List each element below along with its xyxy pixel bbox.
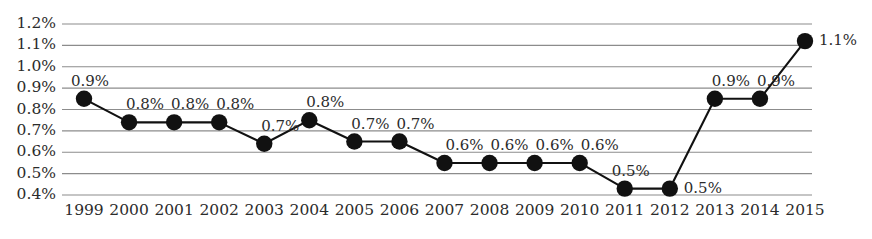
- data-point-marker: [166, 114, 182, 130]
- x-axis-tick-label: 2000: [109, 203, 148, 219]
- data-point-label: 1.1%: [819, 33, 857, 48]
- data-point-label: 0.6%: [445, 138, 483, 153]
- x-axis: 1999200020012002200320042005200620072008…: [62, 203, 812, 233]
- data-point-label: 0.7%: [396, 117, 434, 132]
- data-point-label: 0.7%: [351, 117, 389, 132]
- x-axis-tick-label: 2015: [785, 203, 824, 219]
- data-point-label: 0.8%: [126, 97, 164, 112]
- data-point-label: 0.7%: [261, 119, 299, 134]
- x-axis-tick-label: 2008: [470, 203, 509, 219]
- data-point-label: 0.9%: [71, 74, 109, 89]
- x-axis-tick-label: 2014: [740, 203, 779, 219]
- data-point-label: 0.8%: [306, 95, 344, 110]
- data-point-label: 0.5%: [612, 164, 650, 179]
- data-point-markers: [76, 33, 813, 197]
- x-axis-tick-label: 2001: [154, 203, 193, 219]
- data-point-marker: [301, 112, 317, 128]
- data-point-label: 0.9%: [712, 74, 750, 89]
- x-axis-tick-label: 2002: [199, 203, 238, 219]
- x-axis-tick-label: 2004: [290, 203, 329, 219]
- data-point-label: 0.5%: [684, 181, 722, 196]
- y-axis-tick-label: 0.5%: [17, 166, 56, 182]
- x-axis-tick-label: 2009: [515, 203, 554, 219]
- data-point-marker: [211, 114, 227, 130]
- x-axis-tick-label: 2003: [245, 203, 284, 219]
- data-point-marker: [797, 33, 813, 49]
- x-axis-tick-label: 2006: [380, 203, 419, 219]
- y-axis-tick-label: 0.8%: [17, 102, 56, 118]
- data-point-label: 0.6%: [536, 138, 574, 153]
- data-point-marker: [752, 91, 768, 107]
- x-axis-tick-label: 2010: [560, 203, 599, 219]
- x-axis-tick-label: 2007: [425, 203, 464, 219]
- data-point-marker: [481, 155, 497, 171]
- data-point-label: 0.9%: [757, 74, 795, 89]
- line-chart: 1.2%1.1%1.0%0.9%0.8%0.7%0.6%0.5%0.4% 0.9…: [0, 0, 872, 239]
- x-axis-tick-label: 2005: [335, 203, 374, 219]
- data-point-marker: [121, 114, 137, 130]
- data-point-label: 0.6%: [581, 138, 619, 153]
- data-point-marker: [571, 155, 587, 171]
- data-point-marker: [76, 91, 92, 107]
- data-point-label: 0.6%: [491, 138, 529, 153]
- data-point-marker: [436, 155, 452, 171]
- x-axis-tick-label: 2012: [650, 203, 689, 219]
- y-axis-tick-label: 0.6%: [17, 145, 56, 161]
- data-point-marker: [526, 155, 542, 171]
- data-point-label: 0.8%: [171, 97, 209, 112]
- data-point-marker: [662, 180, 678, 196]
- data-point-marker: [617, 180, 633, 196]
- x-axis-tick-label: 1999: [64, 203, 103, 219]
- y-axis-tick-label: 0.9%: [17, 80, 56, 96]
- data-point-marker: [256, 136, 272, 152]
- x-axis-tick-label: 2013: [695, 203, 734, 219]
- y-axis-tick-label: 1.1%: [17, 38, 56, 54]
- y-axis-tick-label: 1.2%: [17, 16, 56, 32]
- y-axis: 1.2%1.1%1.0%0.9%0.8%0.7%0.6%0.5%0.4%: [0, 0, 56, 239]
- y-axis-tick-label: 0.7%: [17, 123, 56, 139]
- data-point-marker: [391, 133, 407, 149]
- data-point-label: 0.8%: [216, 97, 254, 112]
- data-point-marker: [346, 133, 362, 149]
- y-axis-tick-label: 0.4%: [17, 187, 56, 203]
- y-axis-tick-label: 1.0%: [17, 59, 56, 75]
- x-axis-tick-label: 2011: [605, 203, 644, 219]
- data-point-marker: [707, 91, 723, 107]
